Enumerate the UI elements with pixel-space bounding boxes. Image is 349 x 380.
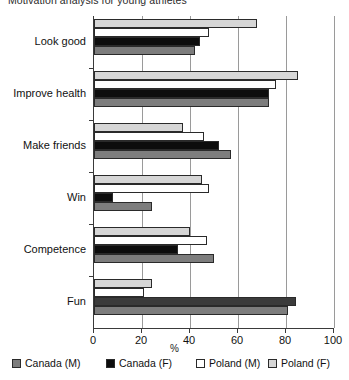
legend-swatch <box>12 359 21 368</box>
legend-item: Poland (F) <box>268 357 330 369</box>
legend-item: Poland (M) <box>196 357 260 369</box>
x-axis-tick <box>237 328 238 333</box>
x-axis-tick <box>285 328 286 333</box>
x-axis-tick <box>189 328 190 333</box>
legend-item: Canada (F) <box>106 357 172 369</box>
legend-swatch <box>196 359 205 368</box>
legend-label: Canada (M) <box>25 357 80 369</box>
y-axis-category-label: Competence <box>0 243 86 255</box>
legend-label: Poland (F) <box>281 357 330 369</box>
x-axis-title: % <box>0 343 349 354</box>
x-axis-tick <box>333 328 334 333</box>
bar-chart-figure: Motivation analysis for young athletes L… <box>0 0 349 380</box>
y-axis-category-label: Look good <box>0 35 86 47</box>
y-axis-category-label: Fun <box>0 295 86 307</box>
legend-swatch <box>106 359 115 368</box>
y-axis-category-label: Win <box>0 191 86 203</box>
y-axis-category-label: Make friends <box>0 139 86 151</box>
chart-legend: Canada (M)Canada (F)Poland (M)Poland (F) <box>0 357 349 377</box>
x-axis-tick <box>141 328 142 333</box>
y-axis-category-labels: Look goodImprove healthMake friendsWinCo… <box>0 16 349 328</box>
x-axis-tick <box>93 328 94 333</box>
legend-label: Poland (M) <box>209 357 260 369</box>
chart-title: Motivation analysis for young athletes <box>8 0 258 6</box>
y-axis-category-label: Improve health <box>0 87 86 99</box>
legend-swatch <box>268 359 277 368</box>
legend-item: Canada (M) <box>12 357 80 369</box>
legend-label: Canada (F) <box>119 357 172 369</box>
